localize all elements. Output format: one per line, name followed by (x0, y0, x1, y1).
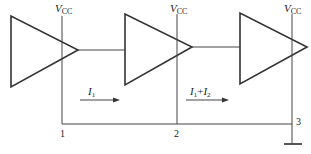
vcc-label-sub: CC (177, 7, 188, 16)
circuit-diagram: VCC VCC VCC I1 I1+I2 1 2 3 (0, 0, 311, 154)
vcc-label-sub: CC (62, 7, 73, 16)
arrow-right-icon (222, 98, 229, 103)
amplifier-1-triangle (11, 16, 78, 87)
amplifier-2-triangle (125, 14, 192, 85)
vcc-label-text: V (170, 2, 177, 14)
node-label-2: 2 (174, 129, 179, 139)
current-label-1: I1 (88, 86, 95, 99)
vcc-label-2: VCC (170, 3, 187, 16)
arrow-right-icon (113, 98, 120, 103)
vcc-label-text: V (284, 2, 291, 14)
vcc-label-1: VCC (55, 3, 72, 16)
amplifier-3-triangle (240, 13, 307, 84)
vcc-label-text: V (55, 2, 62, 14)
node-label-1: 1 (60, 129, 65, 139)
circuit-svg (0, 0, 311, 154)
node-label-3: 3 (296, 117, 301, 127)
current-subscript: 2 (207, 91, 211, 99)
vcc-label-sub: CC (291, 7, 302, 16)
current-label-2: I1+I2 (190, 86, 211, 99)
vcc-label-3: VCC (284, 3, 301, 16)
current-subscript: 1 (92, 91, 96, 99)
